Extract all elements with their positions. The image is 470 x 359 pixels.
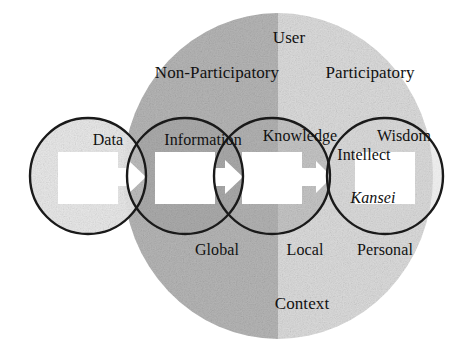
label-user: User xyxy=(273,29,306,46)
label-global: Global xyxy=(195,242,239,258)
label-knowledge: Knowledge xyxy=(263,128,338,144)
label-intellect: Intellect xyxy=(337,147,390,163)
label-context: Context xyxy=(275,295,330,312)
label-local: Local xyxy=(287,242,324,258)
label-personal: Personal xyxy=(357,242,413,258)
label-data: Data xyxy=(93,132,124,148)
label-wisdom: Wisdom xyxy=(377,128,431,144)
label-information: Information xyxy=(164,132,242,148)
label-non-participatory: Non-Participatory xyxy=(155,64,279,81)
label-participatory: Participatory xyxy=(325,64,414,81)
knowledge-square xyxy=(242,152,302,204)
dikw-kansei-diagram: User Non-Participatory Participatory Dat… xyxy=(0,0,470,359)
diagram-canvas xyxy=(0,0,470,359)
label-kansei: Kansei xyxy=(350,190,395,206)
